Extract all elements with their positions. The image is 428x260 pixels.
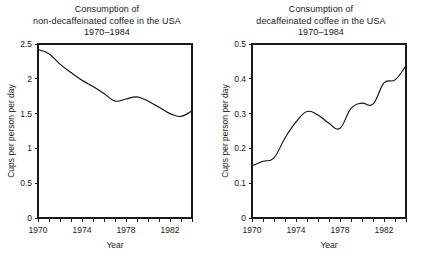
x-tick-label: 1970	[243, 225, 262, 235]
plot-area-left: 00.511.522.51970197419781982YearCups per…	[0, 0, 214, 260]
x-tick-label: 1970	[29, 225, 48, 235]
chart-svg-left: 00.511.522.51970197419781982YearCups per…	[0, 0, 214, 260]
y-tick-label: 0	[241, 213, 246, 223]
chart-svg-right: 00.10.20.30.40.51970197419781982YearCups…	[214, 0, 428, 260]
y-tick-label: 0	[27, 213, 32, 223]
chart-panel-decaffeinated: Consumption of decaffeinated coffee in t…	[214, 0, 428, 260]
y-tick-label: 1	[27, 143, 32, 153]
y-tick-label: 0.5	[234, 39, 246, 49]
y-axis-title: Cups per person per day	[6, 83, 16, 177]
y-tick-label: 2.5	[20, 39, 32, 49]
x-tick-label: 1974	[73, 225, 92, 235]
chart-panel-non-decaffeinated: Consumption of non-decaffeinated coffee …	[0, 0, 214, 260]
x-tick-label: 1978	[117, 225, 136, 235]
y-tick-label: 0.5	[20, 178, 32, 188]
data-series-line	[252, 66, 406, 166]
x-tick-label: 1974	[287, 225, 306, 235]
x-tick-label: 1982	[375, 225, 394, 235]
x-tick-label: 1982	[161, 225, 180, 235]
x-axis-title: Year	[320, 240, 337, 250]
y-tick-label: 0.3	[234, 109, 246, 119]
plot-frame	[252, 44, 406, 218]
x-axis-title: Year	[106, 240, 123, 250]
y-axis-title: Cups per person per day	[220, 83, 230, 177]
data-series-line	[38, 50, 192, 117]
plot-area-right: 00.10.20.30.40.51970197419781982YearCups…	[214, 0, 428, 260]
y-tick-label: 0.1	[234, 178, 246, 188]
coffee-consumption-figure: Consumption of non-decaffeinated coffee …	[0, 0, 428, 260]
plot-frame	[38, 44, 192, 218]
y-tick-label: 0.4	[234, 74, 246, 84]
y-tick-label: 2	[27, 74, 32, 84]
x-tick-label: 1978	[331, 225, 350, 235]
y-tick-label: 0.2	[234, 143, 246, 153]
y-tick-label: 1.5	[20, 109, 32, 119]
